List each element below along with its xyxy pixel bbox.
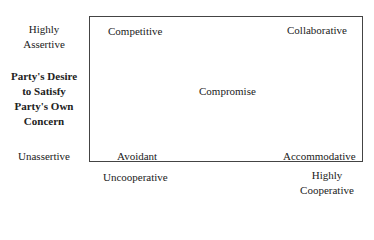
y-title-line3: Party's Own [3,99,85,114]
y-title-line4: Concern [3,114,85,129]
x-high-line1: Highly [292,168,362,183]
y-axis-title: Party's Desire to Satisfy Party's Own Co… [3,69,85,129]
y-axis-low-label: Unassertive [10,149,78,164]
y-axis-high-label: Highly Assertive [14,22,74,52]
y-high-line2: Assertive [14,37,74,52]
y-high-line1: Highly [14,22,74,37]
x-high-line2: Cooperative [292,183,362,198]
x-axis-low-label: Uncooperative [103,170,168,185]
quadrant-compromise: Compromise [199,84,256,99]
x-axis-high-label: Highly Cooperative [292,168,362,198]
y-title-line2: to Satisfy [3,84,85,99]
quadrant-avoidant: Avoidant [117,149,157,164]
y-title-line1: Party's Desire [3,69,85,84]
quadrant-collaborative: Collaborative [287,23,347,38]
quadrant-accommodative: Accommodative [283,149,356,164]
quadrant-competitive: Competitive [108,24,162,39]
